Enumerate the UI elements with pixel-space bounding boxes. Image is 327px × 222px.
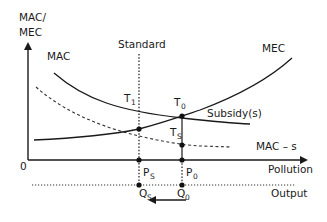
p0-point <box>179 157 184 162</box>
svg-text:P: P <box>186 166 192 178</box>
t0-point <box>179 113 184 118</box>
svg-text:1: 1 <box>131 98 136 107</box>
origin-label: 0 <box>20 160 27 172</box>
svg-text:S: S <box>150 172 155 181</box>
mec-label: MEC <box>262 42 285 54</box>
svg-text:P: P <box>143 166 149 178</box>
standard-label: Standard <box>118 38 166 50</box>
ps-label: P S <box>143 166 155 181</box>
ps-point <box>136 157 141 162</box>
ts-point <box>179 142 184 147</box>
x-axis-label: Pollution <box>268 163 313 175</box>
svg-text:T: T <box>169 126 177 138</box>
svg-text:0: 0 <box>181 102 186 111</box>
t1-label: T 1 <box>123 92 136 107</box>
svg-text:S: S <box>147 193 152 202</box>
svg-text:0: 0 <box>193 172 198 181</box>
y-axis-label-line2: MEC <box>19 26 42 38</box>
t0-label: T 0 <box>173 96 186 111</box>
ts-label: T S <box>169 126 182 141</box>
qs-label: Q S <box>139 187 152 202</box>
mac-minus-s-label: MAC – s <box>256 140 297 152</box>
subsidy-label: Subsidy(s) <box>207 107 262 119</box>
svg-text:T: T <box>123 92 131 104</box>
y-axis-label-line1: MAC/ <box>19 11 46 23</box>
svg-text:S: S <box>177 132 182 141</box>
standard-mec-intersection-point <box>136 126 141 131</box>
mac-label: MAC <box>47 50 70 62</box>
svg-text:0: 0 <box>185 193 190 202</box>
svg-text:T: T <box>173 96 181 108</box>
p0-label: P 0 <box>186 166 198 181</box>
output-axis-label: Output <box>271 187 307 199</box>
diagram-canvas: MAC/ MEC 0 Pollution Output MAC MEC MAC … <box>0 0 327 222</box>
mec-curve <box>34 58 292 140</box>
